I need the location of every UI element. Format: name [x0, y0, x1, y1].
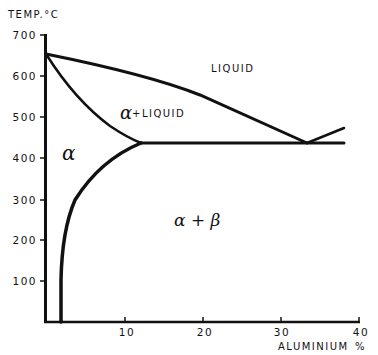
x-tick-labels: 10 20 30 40: [119, 326, 369, 338]
x-axis-title: ALUMINIUM: [278, 341, 349, 352]
y-tick-400: 400: [12, 152, 37, 164]
x-tick-10: 10: [119, 326, 135, 338]
region-alpha-liquid-label: +LIQUID: [132, 108, 185, 119]
region-alpha-beta-label: α + β: [174, 210, 221, 230]
x-tick-40: 40: [353, 326, 369, 338]
y-tick-600: 600: [12, 70, 37, 82]
liquidus-line: [46, 54, 307, 143]
region-alpha-liquid-symbol: α: [120, 102, 132, 123]
liquidus-right-branch: [307, 128, 344, 143]
x-tick-30: 30: [274, 326, 290, 338]
phase-boundaries: [46, 54, 344, 322]
y-tick-200: 200: [12, 234, 37, 246]
y-tick-labels: 700 600 500 400 300 200 100: [12, 29, 37, 287]
region-alpha-label: α: [62, 141, 76, 165]
axes: [40, 34, 360, 323]
y-axis-title: TEMP.°C: [7, 9, 59, 20]
x-axis-unit: %: [355, 341, 366, 352]
region-liquid-label: LIQUID: [211, 63, 254, 74]
y-tick-100: 100: [12, 275, 37, 287]
y-tick-300: 300: [12, 194, 37, 206]
solvus-line: [61, 143, 141, 322]
phase-diagram: 700 600 500 400 300 200 100 10 20 30 40 …: [0, 0, 378, 355]
y-tick-500: 500: [12, 111, 37, 123]
y-tick-700: 700: [12, 29, 37, 41]
solidus-line: [46, 54, 141, 143]
x-tick-20: 20: [197, 326, 213, 338]
